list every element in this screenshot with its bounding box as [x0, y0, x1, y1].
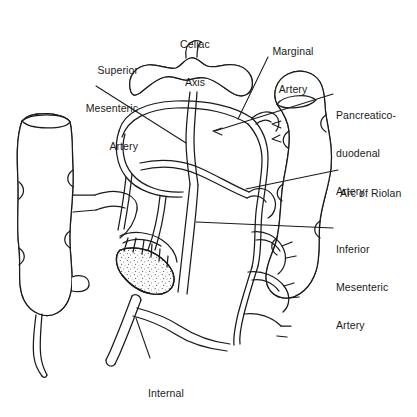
label-celiac-axis-line1: Celiac [152, 38, 238, 51]
label-internal-iliac-line1: Internal [128, 387, 204, 400]
label-internal-iliac-artery: Internal Iliac Artery [128, 362, 204, 417]
leader-internal-iliac [136, 318, 150, 358]
internal-iliac-artery-stump [106, 295, 230, 366]
label-pancreaticoduodenal-line1: Pancreatico- [336, 109, 417, 122]
label-pancreaticoduodenal-line2: duodenal [336, 147, 417, 160]
label-celiac-axis: Celiac Axis [152, 13, 238, 114]
label-superior-mesenteric-line1: Superior [28, 64, 138, 77]
vermiform-appendix [33, 314, 47, 377]
label-celiac-axis-line2: Axis [152, 76, 238, 89]
label-inferior-mesenteric-line3: Artery [336, 319, 417, 332]
small-bowel-loop [116, 233, 177, 295]
label-arc-of-riolan: Arc of Riolan [340, 162, 417, 225]
label-arc-of-riolan-line1: Arc of Riolan [340, 187, 417, 200]
anatomical-figure: Celiac Axis Superior Mesenteric Artery M… [0, 0, 417, 417]
label-inferior-mesenteric-artery: Inferior Mesenteric Artery [336, 218, 417, 357]
label-superior-mesenteric-artery: Superior Mesenteric Artery [28, 39, 138, 178]
label-inferior-mesenteric-line1: Inferior [336, 243, 417, 256]
label-marginal-line1: Marginal [252, 45, 334, 58]
label-marginal-artery: Marginal Artery [252, 20, 334, 121]
label-superior-mesenteric-line2: Mesenteric [28, 102, 138, 115]
label-inferior-mesenteric-line2: Mesenteric [336, 281, 417, 294]
label-marginal-line2: Artery [252, 83, 334, 96]
label-superior-mesenteric-line3: Artery [28, 140, 138, 153]
